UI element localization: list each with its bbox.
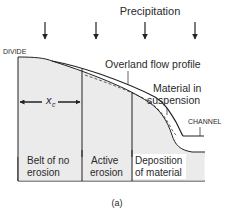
divide-label: DIVIDE (3, 48, 27, 55)
overland-flow-label: Overland flow profile (105, 58, 201, 70)
zone-1-line2: erosion (27, 167, 60, 178)
hillslope-diagram: Precipitation x c DIVIDE Overland flow p… (0, 0, 234, 211)
channel-label: CHANNEL (188, 118, 222, 125)
precipitation-label: Precipitation (120, 5, 181, 17)
figure-caption: (a) (112, 198, 123, 208)
xc-label: x (45, 94, 52, 106)
zone-2-line1: Active (91, 155, 119, 166)
zone-3-line1: Deposition (135, 155, 182, 166)
precipitation-arrows (45, 22, 195, 39)
material-label-line2: suspension (147, 94, 200, 106)
zone-1-line1: Belt of no (27, 155, 70, 166)
zone-3-line2: of material (135, 167, 182, 178)
xc-subscript: c (52, 101, 56, 108)
zone-2-line2: erosion (90, 167, 123, 178)
material-label-line1: Material in (153, 82, 202, 94)
